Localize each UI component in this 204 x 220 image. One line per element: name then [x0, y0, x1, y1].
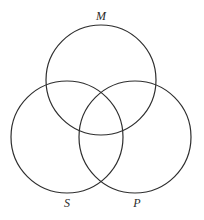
- label-m: M: [96, 10, 106, 22]
- circle-p: [79, 81, 191, 193]
- venn-circles: [0, 0, 204, 220]
- circle-m: [46, 25, 156, 135]
- circle-s: [11, 81, 123, 193]
- venn-diagram: M S P: [0, 0, 204, 220]
- label-p: P: [133, 197, 140, 209]
- label-s: S: [64, 197, 70, 209]
